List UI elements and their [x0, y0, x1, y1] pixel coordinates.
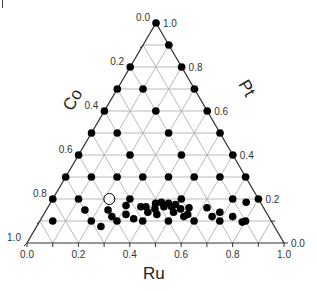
data-point: [113, 129, 121, 137]
grid-line: [40, 221, 53, 243]
grid-line: [156, 133, 221, 243]
tick-label-ru: 0.2: [71, 249, 85, 260]
data-point: [165, 129, 173, 137]
data-point: [165, 217, 173, 225]
data-point: [139, 173, 147, 181]
data-point: [203, 107, 211, 115]
data-point: [190, 173, 198, 181]
data-point: [216, 208, 224, 216]
tick-label-co: 0.6: [59, 144, 73, 155]
data-point: [152, 19, 160, 27]
data-point: [178, 151, 186, 159]
data-point: [75, 195, 83, 203]
data-point: [88, 173, 96, 181]
data-point: [62, 173, 70, 181]
data-point: [114, 85, 122, 93]
data-point: [242, 199, 250, 207]
data-point: [238, 218, 246, 226]
data-point: [153, 211, 161, 219]
data-point: [190, 217, 198, 225]
data-point: [88, 129, 96, 137]
tick-label-pt: 1.0: [163, 18, 177, 29]
open-data-point: [104, 194, 115, 205]
tick-label-co: 0.0: [136, 12, 150, 23]
data-point: [144, 208, 152, 216]
data-point: [203, 204, 211, 212]
tick-label-ru: 0.8: [226, 249, 240, 260]
tick-label-pt: 0.6: [214, 106, 228, 117]
data-point: [75, 151, 83, 159]
tick-label-pt: 0.8: [189, 62, 203, 73]
axis-title-pt: Pt: [235, 77, 260, 101]
data-point: [208, 213, 216, 221]
data-point: [126, 63, 134, 71]
data-point: [108, 213, 116, 221]
tick-label-pt: 0.4: [240, 150, 254, 161]
data-point: [216, 173, 224, 181]
data-point: [184, 211, 192, 219]
data-point: [229, 195, 237, 203]
data-point: [122, 202, 130, 210]
data-point: [216, 217, 224, 225]
data-point: [104, 206, 112, 214]
data-point: [185, 204, 193, 212]
data-point: [165, 41, 173, 49]
data-point: [97, 223, 105, 231]
data-point: [170, 208, 178, 216]
data-point: [255, 195, 263, 203]
data-point: [49, 217, 57, 225]
data-point: [126, 151, 134, 159]
data-point: [178, 63, 186, 71]
tick-label-ru: 1.0: [277, 249, 291, 260]
data-point: [88, 217, 96, 225]
data-point: [177, 205, 185, 213]
grid-line: [207, 177, 246, 243]
tick-label-ru: 0.4: [123, 249, 137, 260]
data-point: [126, 195, 134, 203]
tick-label-ru: 0.0: [20, 249, 34, 260]
axis-title-ru: Ru: [143, 264, 165, 283]
data-point: [49, 195, 57, 203]
data-point: [81, 206, 89, 214]
data-point: [139, 85, 147, 93]
data-point: [229, 151, 237, 159]
tick-label-co: 1.0: [7, 232, 21, 243]
data-point: [152, 107, 160, 115]
data-point: [191, 85, 199, 93]
tick-label-pt: 0.2: [265, 194, 279, 205]
data-point: [178, 195, 186, 203]
data-point: [242, 173, 250, 181]
data-point: [139, 217, 147, 225]
data-point: [229, 213, 237, 221]
data-point: [130, 215, 138, 223]
tick-label-co: 0.2: [110, 56, 124, 67]
axis-title-co: Co: [59, 86, 86, 114]
data-point: [113, 173, 121, 181]
tick-label-co: 0.8: [33, 188, 47, 199]
data-point: [216, 129, 224, 137]
data-point: [101, 107, 109, 115]
data-point: [165, 173, 173, 181]
tick-label-co: 0.4: [84, 100, 98, 111]
data-point: [122, 211, 130, 219]
grid-line: [258, 221, 271, 243]
ternary-chart: 0.00.01.00.20.20.80.40.40.60.60.60.40.80…: [0, 0, 317, 291]
tick-label-ru: 0.6: [174, 249, 188, 260]
tick-label-pt: 0.0: [291, 238, 305, 249]
